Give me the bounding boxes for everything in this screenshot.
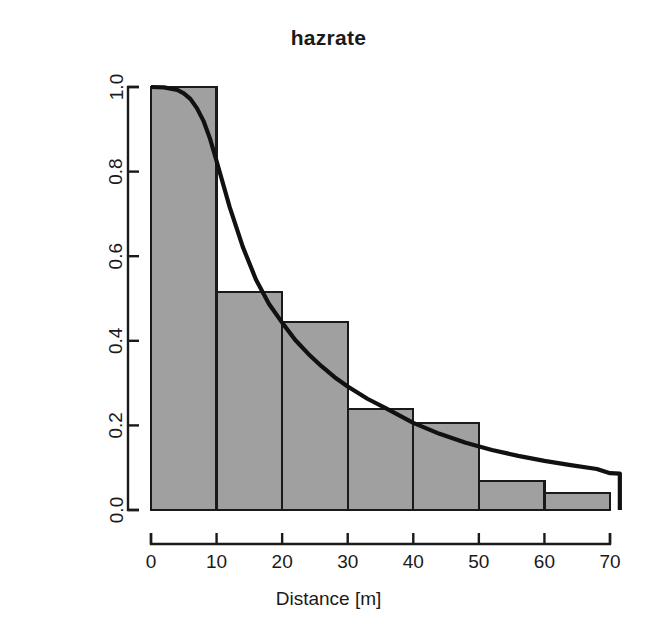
histogram-bar [282,322,348,510]
x-tick-label: 30 [337,551,358,572]
x-tick-label: 10 [206,551,227,572]
histogram-bars [151,87,610,510]
y-tick-label: 1.0 [106,74,127,100]
chart-plot-area: 010203040506070 0.00.20.40.60.81.0 [0,0,657,636]
y-tick-label: 0.4 [106,327,127,354]
x-tick-label: 20 [272,551,293,572]
y-axis-line [128,87,139,510]
histogram-bar [151,87,217,510]
y-tick-label: 0.8 [106,158,127,184]
histogram-bar [479,481,545,510]
y-tick-label: 0.6 [106,243,127,269]
chart-container: hazrate Probability of detection Distanc… [0,0,657,636]
y-tick-labels: 0.00.20.40.60.81.0 [106,74,127,523]
x-tick-label: 60 [534,551,555,572]
y-axis [128,87,139,510]
x-tick-label: 40 [403,551,424,572]
x-tick-label: 50 [468,551,489,572]
histogram-bar [544,493,610,510]
y-tick-label: 0.2 [106,412,127,438]
y-tick-label: 0.0 [106,497,127,523]
x-tick-label: 70 [599,551,620,572]
histogram-bar [217,292,283,510]
x-axis-line [151,533,610,544]
histogram-bar [348,409,414,510]
x-axis [151,533,610,544]
x-tick-label: 0 [146,551,157,572]
x-tick-labels: 010203040506070 [146,551,621,572]
